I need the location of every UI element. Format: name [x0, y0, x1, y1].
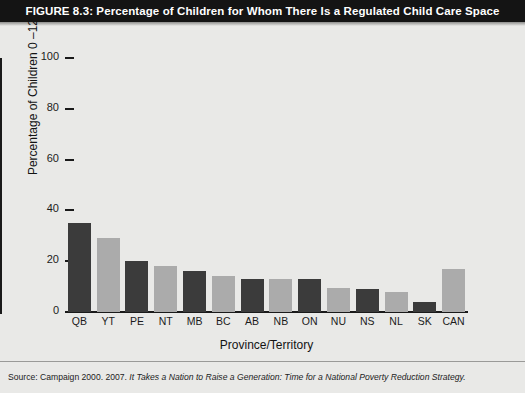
x-axis-tick-labels: QBYTPENTMBBCABNBONNUNSNLSKCAN [65, 315, 468, 331]
bar-nt [154, 266, 177, 312]
bar-pe [125, 261, 148, 312]
y-axis-line [0, 58, 2, 314]
bar-nu [327, 288, 350, 312]
x-tick-label-nb: NB [267, 315, 296, 327]
y-axis-tick-label: 100 [25, 50, 59, 62]
x-tick-label-nt: NT [151, 315, 180, 327]
bar-ab [241, 279, 264, 312]
source-note: Source: Campaign 2000. 2007. It Takes a … [8, 371, 520, 383]
x-tick-label-mb: MB [180, 315, 209, 327]
bar-sk [413, 302, 436, 312]
x-tick-label-bc: BC [209, 315, 238, 327]
y-axis-tick-label: 40 [25, 202, 59, 214]
source-divider [0, 361, 525, 362]
y-axis-tick-label: 60 [25, 152, 59, 164]
banner-shadow [0, 22, 525, 26]
x-tick-label-nl: NL [382, 315, 411, 327]
y-axis-tick-label: 80 [25, 101, 59, 113]
x-axis-title: Province/Territory [65, 338, 468, 352]
x-tick-label-pe: PE [123, 315, 152, 327]
bar-on [298, 279, 321, 312]
bar-nl [385, 292, 408, 312]
bar-nb [269, 279, 292, 312]
x-tick-label-nu: NU [324, 315, 353, 327]
x-tick-label-sk: SK [410, 315, 439, 327]
y-axis-tick-label: 20 [25, 253, 59, 265]
bar-mb [183, 271, 206, 312]
x-tick-label-on: ON [295, 315, 324, 327]
bar-bc [212, 276, 235, 312]
bar-can [442, 269, 465, 312]
figure-title-banner: FIGURE 8.3: Percentage of Children for W… [0, 0, 525, 22]
figure-title: FIGURE 8.3: Percentage of Children for W… [26, 5, 500, 17]
y-axis-tick-label: 0 [25, 304, 59, 316]
figure-container: FIGURE 8.3: Percentage of Children for W… [0, 0, 525, 393]
x-tick-label-yt: YT [94, 315, 123, 327]
x-tick-label-ab: AB [238, 315, 267, 327]
bar-ns [356, 289, 379, 312]
bar-yt [97, 238, 120, 312]
source-title: It Takes a Nation to Raise a Generation:… [129, 372, 465, 382]
x-tick-label-qb: QB [65, 315, 94, 327]
x-tick-label-ns: NS [353, 315, 382, 327]
bars-layer [65, 58, 468, 312]
source-prefix: Source: Campaign 2000. 2007. [8, 372, 129, 382]
bar-qb [68, 223, 91, 312]
x-tick-label-can: CAN [439, 315, 468, 327]
